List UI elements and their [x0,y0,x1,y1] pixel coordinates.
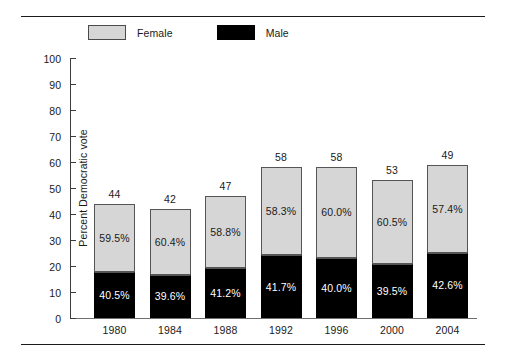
bar-total-label-2004: 49 [427,149,468,161]
chart-legend: Female Male [88,25,289,40]
bar-segment-label-male-1980: 40.5% [99,289,129,301]
bar-segment-label-female-1988: 58.8% [210,226,240,238]
bar-group-1996: 60.0%40.0%581996 [316,58,357,318]
y-tick-label-10: 10 [49,287,61,299]
bar-segment-label-male-1992: 41.7% [266,281,296,293]
legend-label-female: Female [137,27,173,39]
bar-group-2004: 57.4%42.6%492004 [427,58,468,318]
bar-segment-label-female-2004: 57.4% [432,203,462,215]
bar-total-label-2000: 53 [372,164,413,176]
y-tick-label-90: 90 [49,79,61,91]
bar-segment-female-2004[interactable]: 57.4% [427,165,468,253]
bar-2004[interactable]: 57.4%42.6% [427,165,468,318]
bar-2000[interactable]: 60.5%39.5% [372,180,413,318]
x-tick-label-1996: 1996 [310,324,363,336]
bar-1984[interactable]: 60.4%39.6% [150,209,191,318]
bar-segment-male-1988[interactable]: 41.2% [205,268,246,318]
bar-total-label-1984: 42 [150,193,191,205]
bar-segment-label-male-2004: 42.6% [432,279,462,291]
bar-segment-label-female-2000: 60.5% [377,216,407,228]
bar-group-1992: 58.3%41.7%581992 [261,58,302,318]
legend-item-male: Male [217,25,289,40]
bar-group-2000: 60.5%39.5%532000 [372,58,413,318]
bar-segment-female-1996[interactable]: 60.0% [316,167,357,257]
x-tick-label-1992: 1992 [255,324,308,336]
bar-segment-female-1988[interactable]: 58.8% [205,196,246,268]
male-swatch-icon [217,25,255,40]
x-tick-label-2004: 2004 [421,324,474,336]
bar-group-1988: 58.8%41.2%471988 [205,58,246,318]
bar-group-1980: 59.5%40.5%441980 [94,58,135,318]
x-tick-label-1980: 1980 [88,324,141,336]
y-tick-label-0: 0 [55,313,61,325]
bar-segment-male-1984[interactable]: 39.6% [150,275,191,318]
bar-series-container: 59.5%40.5%44198060.4%39.6%42198458.8%41.… [70,58,480,318]
y-tick-label-20: 20 [49,261,61,273]
bar-segment-label-male-2000: 39.5% [377,285,407,297]
bar-1980[interactable]: 59.5%40.5% [94,204,135,318]
bar-segment-male-2004[interactable]: 42.6% [427,253,468,318]
bar-segment-label-female-1996: 60.0% [321,206,351,218]
y-tick-label-70: 70 [49,131,61,143]
x-tick-label-1988: 1988 [199,324,252,336]
bar-total-label-1996: 58 [316,151,357,163]
legend-label-male: Male [266,27,289,39]
bar-segment-label-female-1992: 58.3% [266,205,296,217]
y-tick-label-80: 80 [49,105,61,117]
y-tick-label-60: 60 [49,157,61,169]
bar-segment-label-male-1988: 41.2% [210,287,240,299]
plot-area: Percent Democratic vote 0102030405060708… [70,58,480,318]
bar-segment-male-1992[interactable]: 41.7% [261,255,302,318]
y-tick-label-100: 100 [43,53,61,65]
female-swatch-icon [88,25,126,40]
bar-total-label-1988: 47 [205,180,246,192]
bar-1996[interactable]: 60.0%40.0% [316,167,357,318]
legend-item-female: Female [88,25,173,40]
bar-group-1984: 60.4%39.6%421984 [150,58,191,318]
bar-segment-label-male-1984: 39.6% [155,290,185,302]
bar-segment-label-female-1984: 60.4% [155,236,185,248]
x-axis-line [70,318,477,319]
y-tick-label-50: 50 [49,183,61,195]
bar-segment-male-2000[interactable]: 39.5% [372,264,413,318]
bar-segment-female-1980[interactable]: 59.5% [94,204,135,272]
bar-segment-female-1984[interactable]: 60.4% [150,209,191,275]
bar-segment-label-male-1996: 40.0% [321,282,351,294]
y-tick-0: 0 [70,318,76,319]
bar-total-label-1980: 44 [94,188,135,200]
y-tick-label-40: 40 [49,209,61,221]
y-tick-label-30: 30 [49,235,61,247]
bar-1992[interactable]: 58.3%41.7% [261,167,302,318]
top-divider-rule [21,16,485,17]
x-tick-label-2000: 2000 [366,324,419,336]
bar-segment-female-1992[interactable]: 58.3% [261,167,302,255]
bar-1988[interactable]: 58.8%41.2% [205,196,246,318]
x-tick-label-1984: 1984 [144,324,197,336]
bar-segment-male-1980[interactable]: 40.5% [94,272,135,318]
bar-segment-male-1996[interactable]: 40.0% [316,258,357,318]
bar-segment-label-female-1980: 59.5% [99,232,129,244]
bar-segment-female-2000[interactable]: 60.5% [372,180,413,263]
bottom-divider-rule [21,344,485,345]
bar-total-label-1992: 58 [261,151,302,163]
